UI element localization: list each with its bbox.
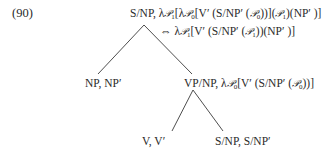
vp-right-child-node: S/NP, S/NP′ bbox=[215, 134, 271, 148]
equivalence-line: ⇔ λ𝒫1[V′ (S/NP′ (𝒫1))(NP′ )] bbox=[160, 24, 295, 42]
root-node-label: S/NP, λ𝒫1[λ𝒫0[V′ (S/NP′ (𝒫0))](𝒫1)(NP′ )… bbox=[130, 6, 321, 24]
root-category: S/NP, bbox=[130, 7, 156, 19]
right-child-node: VP/NP, λ𝒫0[V′ (S/NP′ (𝒫0))] bbox=[184, 76, 314, 94]
edge-vp-left bbox=[172, 90, 193, 131]
equivalence-icon: ⇔ bbox=[160, 25, 172, 37]
example-number: (90) bbox=[12, 6, 33, 20]
formula-text: [V′ (S/NP′ ( bbox=[190, 25, 245, 37]
formula-text: [V′ (S/NP′ ( bbox=[195, 7, 250, 19]
script-p: 𝒫 bbox=[250, 8, 257, 19]
left-child-node: NP, NP′ bbox=[85, 76, 121, 90]
edge-vp-right bbox=[193, 90, 223, 131]
vp-left-child-node: V, V′ bbox=[142, 134, 165, 148]
formula-text: )(NP′ )] bbox=[286, 7, 321, 19]
formula-text: [λ bbox=[175, 7, 184, 19]
formula-text: ))(NP′ )] bbox=[256, 25, 295, 37]
formula-text: ))] bbox=[303, 77, 315, 89]
formula-text: ))]( bbox=[260, 7, 275, 19]
script-p: 𝒫 bbox=[227, 78, 234, 89]
vp-category: VP/NP, bbox=[184, 77, 218, 89]
edge-root-left bbox=[98, 25, 144, 74]
script-p: 𝒫 bbox=[292, 78, 299, 89]
formula-text: [V′ (S/NP′ ( bbox=[237, 77, 292, 89]
script-p: 𝒫 bbox=[180, 26, 187, 37]
